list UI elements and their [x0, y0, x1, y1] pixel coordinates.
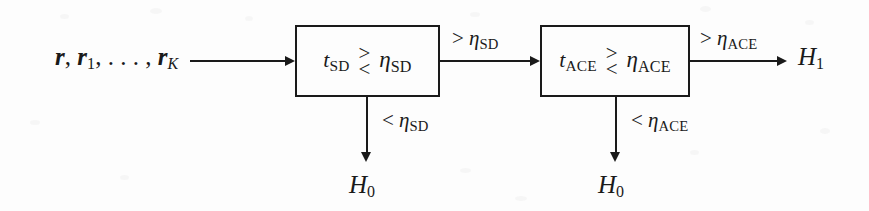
stage1-threshold: ηSD	[379, 48, 411, 75]
stage2-accept-label: > ηACE	[700, 28, 757, 52]
input-r: r	[55, 43, 65, 70]
stage1-reject-operator: <	[382, 108, 394, 132]
stage2-H0: H	[598, 171, 616, 198]
alternative-hypothesis-output: H1	[798, 44, 824, 72]
stage2-accept-threshold: η	[717, 26, 727, 50]
scan-speckle	[245, 16, 253, 21]
stage2-accept-operator: >	[700, 26, 712, 50]
stage2-statistic: tACE	[559, 49, 596, 74]
stage2-threshold-subscript: ACE	[638, 57, 671, 74]
scan-speckle	[60, 14, 69, 19]
stage1-reject-label: < ηSD	[382, 110, 429, 134]
stage2-reject-arrow-line	[615, 97, 617, 154]
stage1-accept-arrow-line	[440, 60, 531, 62]
stage1-cmp-less: <	[358, 61, 370, 77]
stage1-reject-threshold-subscript: SD	[410, 118, 429, 134]
stage1-comparison-operator: > <	[358, 45, 370, 78]
scan-speckle	[690, 150, 699, 155]
stage1-statistic-subscript: SD	[329, 57, 349, 74]
stage2-reject-operator: <	[631, 108, 643, 132]
stage1-H-subscript: 0	[367, 183, 375, 200]
scan-speckle	[460, 168, 471, 173]
stage2-accept-arrow-head	[777, 56, 787, 66]
input-arrow-line	[190, 60, 286, 62]
stage2-accept-threshold-subscript: ACE	[728, 36, 758, 52]
stage2-statistic-subscript: ACE	[565, 57, 596, 74]
stage2-decision-box[interactable]: tACE > < ηACE	[540, 25, 690, 97]
stage1-null-hypothesis-output: H0	[349, 172, 375, 200]
input-signal-label: r, r1, . . . , rK	[55, 44, 178, 72]
scan-speckle	[150, 8, 162, 14]
diagram-canvas: r, r1, . . . , rK tSD > < ηSD > ηSD < ηS…	[0, 0, 869, 211]
input-arrow-head	[285, 56, 295, 66]
stage1-accept-arrow-head	[530, 56, 540, 66]
stage2-reject-threshold: η	[648, 108, 658, 132]
stage1-statistic: tSD	[323, 49, 349, 74]
stage2-H1-subscript: 1	[816, 55, 824, 72]
stage2-reject-threshold-subscript: ACE	[659, 118, 689, 134]
stage2-comparison-operator: > <	[606, 45, 618, 78]
scan-speckle	[470, 12, 480, 17]
stage2-cmp-less: <	[606, 61, 618, 77]
input-r1-subscript: 1	[87, 55, 95, 72]
stage1-accept-threshold-subscript: SD	[480, 36, 499, 52]
stage2-H1: H	[798, 43, 816, 70]
input-ellipsis: , . . . ,	[95, 43, 158, 70]
stage2-null-hypothesis-output: H0	[598, 172, 624, 200]
scan-speckle	[805, 20, 814, 25]
stage2-accept-arrow-line	[690, 60, 778, 62]
stage1-H: H	[349, 171, 367, 198]
scan-speckle	[820, 128, 830, 134]
stage2-threshold: ηACE	[627, 48, 671, 75]
input-rK: r	[158, 43, 168, 70]
scan-speckle	[120, 175, 129, 180]
stage1-threshold-subscript: SD	[391, 57, 412, 74]
stage2-reject-label: < ηACE	[631, 110, 688, 134]
input-comma: ,	[65, 43, 78, 70]
input-rK-subscript: K	[167, 55, 178, 72]
stage1-reject-arrow-line	[366, 97, 368, 154]
input-r1: r	[77, 43, 87, 70]
stage1-reject-threshold: η	[399, 108, 409, 132]
scan-speckle	[515, 196, 527, 201]
stage1-decision-box[interactable]: tSD > < ηSD	[295, 25, 440, 97]
stage1-accept-threshold: η	[469, 26, 479, 50]
stage2-H0-subscript: 0	[616, 183, 624, 200]
scan-speckle	[700, 6, 711, 12]
stage1-accept-label: > ηSD	[452, 28, 499, 52]
stage1-accept-operator: >	[452, 26, 464, 50]
stage1-reject-arrow-head	[361, 152, 371, 162]
stage2-reject-arrow-head	[610, 152, 620, 162]
scan-speckle	[30, 120, 40, 125]
